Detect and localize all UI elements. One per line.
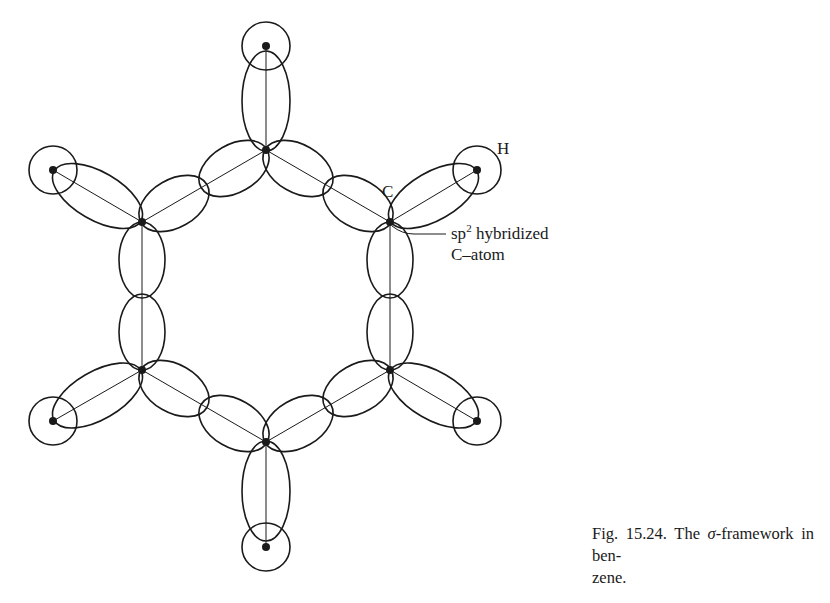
- cc-bond-c2-c3: [367, 222, 413, 370]
- carbon-nucleus-6: [138, 218, 146, 226]
- hybridized-text: hybridized: [472, 224, 549, 243]
- hydrogen-nucleus-6: [49, 166, 57, 174]
- carbon-label: C: [382, 183, 393, 201]
- hydrogen-nucleus-4: [262, 543, 270, 551]
- hydrogen-nucleus-5: [49, 417, 57, 425]
- ch-bond-top: [242, 22, 290, 151]
- figure-caption: Fig. 15.24. The σ-framework in ben- zene…: [592, 523, 814, 589]
- sp2-annotation-line1: sp2 hybridized: [451, 225, 549, 243]
- hydrogen-nucleus-1: [262, 42, 270, 50]
- cc-bond-c5-c6: [119, 222, 165, 370]
- sp2-annotation-line2: C–atom: [451, 246, 505, 264]
- ch-bond-bottom: [242, 441, 290, 571]
- hydrogen-label: H: [497, 140, 509, 158]
- carbon-nucleus-3: [386, 366, 394, 374]
- hydrogen-nucleus-3: [473, 417, 481, 425]
- sigma-symbol: σ: [708, 524, 716, 543]
- carbon-nucleus-1: [262, 146, 270, 154]
- carbon-nucleus-5: [138, 366, 146, 374]
- hydrogen-nucleus-2: [473, 166, 481, 174]
- benzene-sigma-framework-diagram: [0, 0, 830, 603]
- figure-number: Fig. 15.24.: [592, 524, 667, 543]
- sp-text: sp: [451, 224, 466, 243]
- caption-text-line2: zene.: [592, 568, 626, 587]
- carbon-nucleus-2: [386, 218, 394, 226]
- carbon-nucleus-4: [262, 438, 270, 446]
- caption-text-before: The: [674, 524, 707, 543]
